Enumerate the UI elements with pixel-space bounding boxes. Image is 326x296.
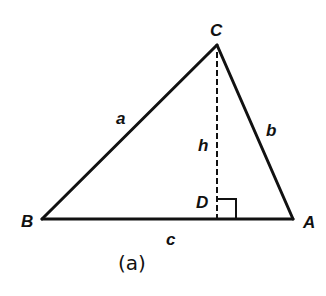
- side-label-c: c: [166, 230, 176, 249]
- vertex-label-d: D: [196, 193, 208, 212]
- altitude-label-h: h: [198, 136, 208, 155]
- vertex-label-a: A: [302, 213, 315, 232]
- side-label-a: a: [116, 109, 125, 128]
- vertex-label-b: B: [21, 212, 33, 231]
- side-b-line: [217, 45, 293, 219]
- figure-caption: (a): [118, 251, 146, 275]
- right-angle-marker: [217, 199, 236, 219]
- side-a-line: [42, 45, 217, 219]
- side-label-b: b: [266, 121, 276, 140]
- vertex-label-c: C: [210, 21, 223, 40]
- triangle-diagram: C B A D a b c h (a): [0, 0, 326, 296]
